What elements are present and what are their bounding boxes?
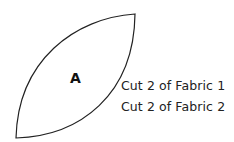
cut-instruction-2: Cut 2 of Fabric 2 xyxy=(121,99,225,114)
pattern-piece-shape xyxy=(0,0,234,142)
cut-instruction-1: Cut 2 of Fabric 1 xyxy=(121,78,225,93)
piece-label: A xyxy=(70,70,81,86)
